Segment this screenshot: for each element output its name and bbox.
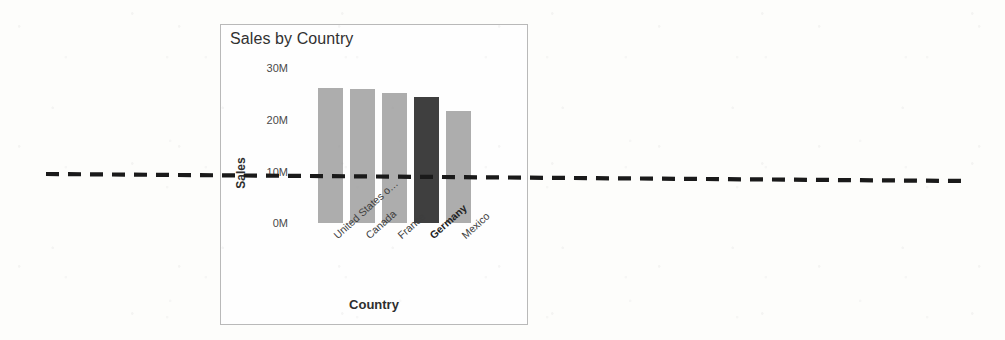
plot-area: Sales 30M 20M 10M 0M United States o… Ca…	[221, 25, 527, 324]
x-axis-title: Country	[221, 297, 527, 312]
bar-germany[interactable]	[414, 97, 439, 223]
chart-container[interactable]: Sales by Country Sales 30M 20M 10M 0M Un…	[220, 24, 528, 325]
bar-united-states[interactable]	[318, 88, 343, 223]
bar-france[interactable]	[382, 93, 407, 223]
